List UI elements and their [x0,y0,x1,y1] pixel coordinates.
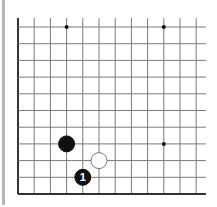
board-grid [18,18,206,194]
go-board: 1 [0,0,217,207]
move-number-label: 1 [80,171,86,183]
star-point-icon [162,25,166,29]
star-point-icon [162,142,166,146]
black-stone-icon [59,136,75,152]
star-point-icon [65,25,69,29]
white-stone-icon [91,153,107,169]
